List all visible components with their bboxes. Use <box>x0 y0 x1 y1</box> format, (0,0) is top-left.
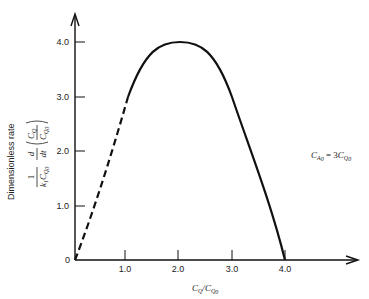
y-axis-label: Dimensionless rate <box>6 123 16 200</box>
y-tick-label: 2.0 <box>56 146 69 156</box>
x-tick-label: 4.0 <box>279 264 292 274</box>
x-tick-label: 1.0 <box>119 264 132 274</box>
condition-annotation: CA0 = 3CQ0 <box>311 150 351 162</box>
y-axis-label-text: Dimensionless rate <box>6 123 16 200</box>
svg-text:CQ0: CQ0 <box>38 127 50 140</box>
x-tick-label: 2.0 <box>172 264 185 274</box>
svg-text:dt: dt <box>38 150 48 158</box>
origin-label: 0 <box>65 255 70 265</box>
chart-canvas: 1.0 2.0 3.0 4.0 0 1.0 2.0 3.0 4.0 CQ/CQ0… <box>0 0 369 299</box>
x-tick-label: 3.0 <box>226 264 239 274</box>
x-axis-label: CQ/CQ0 <box>192 283 218 295</box>
y-axis-formula: 1 k1CQ0 d dt CQ CQ0 <box>26 121 50 187</box>
svg-text:1: 1 <box>26 175 36 180</box>
axes <box>71 14 358 264</box>
svg-text:k1CQ0: k1CQ0 <box>38 167 50 187</box>
y-tick-label: 1.0 <box>56 201 69 211</box>
y-tick-label: 4.0 <box>56 37 69 47</box>
y-ticks: 1.0 2.0 3.0 4.0 0 <box>56 37 85 265</box>
x-ticks: 1.0 2.0 3.0 4.0 <box>119 250 292 274</box>
svg-text:CQ: CQ <box>26 128 37 139</box>
svg-text:d: d <box>26 151 36 156</box>
y-tick-label: 3.0 <box>56 92 69 102</box>
rate-curve-solid <box>128 42 285 260</box>
rate-curve-dashed <box>75 97 128 260</box>
